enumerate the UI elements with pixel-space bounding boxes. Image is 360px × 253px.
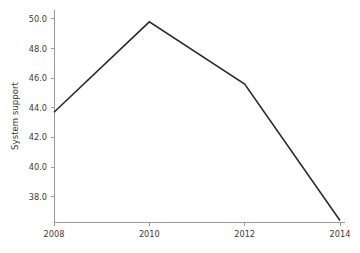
x-tick-label: 2010 (139, 229, 160, 239)
line-chart: 38.040.042.044.046.048.050.0 20082010201… (0, 0, 360, 253)
y-tick-label: 50.0 (29, 14, 47, 24)
x-tick-label: 2008 (44, 229, 65, 239)
y-tick-label: 46.0 (29, 73, 47, 83)
y-tick-label: 38.0 (29, 192, 47, 202)
x-tick-label: 2012 (234, 229, 255, 239)
chart-figure: 38.040.042.044.046.048.050.0 20082010201… (0, 0, 360, 253)
y-axis-title: System support (10, 81, 20, 149)
y-axis-title-group: System support (10, 81, 20, 149)
x-tick-label: 2014 (330, 229, 351, 239)
y-tick-label: 42.0 (29, 132, 47, 142)
y-tick-label: 40.0 (29, 162, 47, 172)
y-tick-label: 44.0 (29, 103, 47, 113)
y-tick-label: 48.0 (29, 44, 47, 54)
